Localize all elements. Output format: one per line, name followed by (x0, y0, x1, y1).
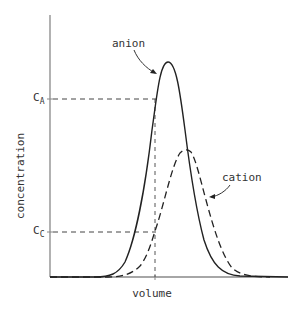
ca-label-main: C (33, 91, 40, 104)
ca-label-subscript: A (40, 97, 45, 106)
cation-arrowhead (209, 194, 215, 199)
anion-curve (50, 62, 288, 277)
anion-label: anion (112, 37, 145, 50)
elution-diagram: anion cation CA CC volume concentration (0, 0, 300, 309)
cc-label-subscript: C (40, 230, 45, 239)
y-axis-label: concentration (14, 133, 27, 219)
x-axis-label: volume (132, 287, 172, 300)
cc-label: CC (33, 224, 45, 239)
cation-curve (50, 150, 270, 277)
anion-pointer (134, 50, 155, 73)
anion-arrowhead (150, 69, 157, 74)
cc-label-main: C (33, 224, 40, 237)
cation-label: cation (222, 171, 262, 184)
ca-label: CA (33, 91, 45, 106)
